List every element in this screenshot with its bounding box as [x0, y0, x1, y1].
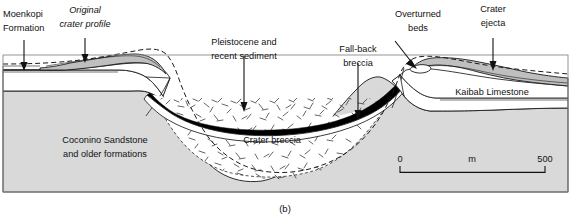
label-crater-breccia: Crater breccia	[243, 135, 302, 145]
label-pleistocene-line2: recent sediment	[211, 51, 277, 61]
cross-section-diagram: 0 m 500 Moenkopi Formation Original crat…	[0, 0, 571, 218]
scale-bar-unit-label: m	[468, 154, 476, 164]
label-original-profile-line1: Original	[69, 5, 102, 15]
label-kaibab-limestone: Kaibab Limestone	[455, 87, 529, 97]
label-coconino-line1: Coconino Sandstone	[62, 135, 147, 145]
label-moenkopi-line2: Formation	[3, 23, 44, 33]
scale-bar-min-label: 0	[397, 154, 402, 164]
label-coconino-line2: and older formations	[63, 149, 147, 159]
label-ejecta-line2: ejecta	[481, 18, 506, 28]
label-fallback-line2: breccia	[343, 58, 374, 68]
figure-container: 0 m 500 Moenkopi Formation Original crat…	[0, 0, 571, 218]
label-original-profile-line2: crater profile	[59, 19, 110, 29]
label-moenkopi-line1: Moenkopi	[3, 9, 43, 19]
label-overturned-line1: Overturned	[395, 9, 441, 19]
figure-caption: (b)	[279, 203, 291, 214]
pleistocene-arrowhead	[241, 102, 248, 112]
label-ejecta-line1: Crater	[480, 4, 506, 14]
label-pleistocene-line1: Pleistocene and	[211, 37, 276, 47]
scale-bar-max-label: 500	[537, 154, 552, 164]
label-fallback-line1: Fall-back	[339, 44, 377, 54]
label-overturned-line2: beds	[408, 23, 428, 33]
